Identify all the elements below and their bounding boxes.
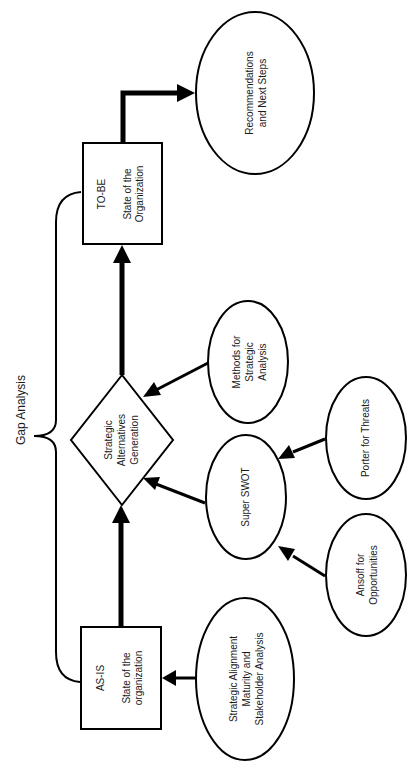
strategic-alignment-line-3: Stakeholder Analysis <box>254 633 265 726</box>
to-be-line-3: Organization <box>134 166 145 223</box>
to-be-line-2: State of the <box>122 168 133 220</box>
as-is-line-3: organization <box>133 651 144 705</box>
methods-node: Methods for Strategic Analysis <box>208 301 288 423</box>
ansoff-line-2: Opportunities <box>368 545 379 604</box>
porter-node: Porter for Threats <box>326 377 406 499</box>
to-be-title: TO-BE <box>96 178 107 209</box>
as-is-box: AS-IS State of the organization <box>81 627 161 729</box>
strategic-alternatives-line-1: Strategic <box>103 420 114 459</box>
strategic-alignment-line-1: Strategic Alignment <box>228 636 239 722</box>
super-swot-label: Super SWOT <box>240 467 251 526</box>
arrow-ansoff-to-swot <box>278 546 325 576</box>
methods-line-1: Methods for <box>231 335 242 388</box>
as-is-line-2: State of the <box>121 652 132 704</box>
recommendations-node: Recommendations and Next Steps <box>196 12 314 174</box>
gap-analysis-label: Gap Analysis <box>14 375 28 445</box>
arrow-methods-to-alternatives <box>143 363 208 397</box>
recommendations-line-2: and Next Steps <box>257 59 268 127</box>
arrow-alternatives-to-to-be <box>113 245 131 375</box>
methods-line-2: Strategic <box>244 342 255 381</box>
arrow-to-be-to-recommendations <box>123 84 195 143</box>
super-swot-node: Super SWOT <box>206 435 286 559</box>
strategic-alternatives-line-3: Generation <box>129 415 140 464</box>
as-is-title: AS-IS <box>95 665 106 691</box>
to-be-box: TO-BE State of the Organization <box>83 143 162 244</box>
strategic-alignment-node: Strategic Alignment Maturity and Stakeho… <box>196 598 294 760</box>
recommendations-line-1: Recommendations <box>244 51 255 134</box>
porter-label: Porter for Threats <box>360 399 371 477</box>
ansoff-line-1: Ansoff for <box>355 553 366 596</box>
arrow-swot-to-alternatives <box>143 477 205 503</box>
arrow-porter-to-swot <box>278 439 325 459</box>
arrow-alignment-to-as-is <box>162 670 196 686</box>
gap-analysis-diagram: Gap Analysis TO-BE State of the Organiza… <box>0 0 419 781</box>
strategic-alignment-line-2: Maturity and <box>241 651 252 706</box>
strategic-alternatives-line-2: Alternatives <box>116 414 127 466</box>
methods-line-3: Analysis <box>257 343 268 380</box>
ansoff-node: Ansoff for Opportunities <box>326 514 406 636</box>
arrow-as-is-to-alternatives <box>112 505 130 627</box>
